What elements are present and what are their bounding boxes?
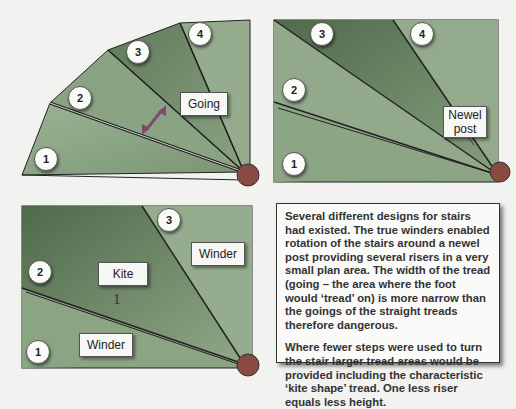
step-number-1: 1 (282, 152, 306, 176)
step-number-1: 1 (34, 147, 58, 171)
step-number-2: 2 (68, 86, 92, 110)
step-number-3: 3 (126, 40, 150, 64)
step-number-3: 3 (157, 208, 181, 232)
step-number-1: 1 (26, 340, 50, 364)
fan-winders-diagram: 1 2 3 4 Going (0, 0, 260, 190)
step-number-4: 4 (188, 22, 212, 46)
description-paragraph-1: Several different designs for stairs had… (285, 210, 491, 332)
newel-label-line1: Newel (448, 108, 481, 122)
kite-label: Kite (98, 262, 148, 286)
step-number-2: 2 (282, 78, 306, 102)
marker-one: 1 (113, 291, 121, 308)
step-number-4: 4 (410, 22, 434, 46)
newel-post-icon (237, 164, 259, 186)
step-number-2: 2 (28, 260, 52, 284)
step-number-3: 3 (310, 22, 334, 46)
kite-winders-diagram: 1 2 3 Kite Winder Winder 1 (0, 190, 260, 381)
description-paragraph-2: Where fewer steps were used to turn the … (285, 341, 491, 409)
description-box: Several different designs for stairs had… (276, 203, 500, 363)
newel-post-icon (237, 354, 259, 376)
winder-label-upper: Winder (191, 242, 245, 266)
newel-label-line2: post (454, 122, 477, 136)
newel-post-label: Newel post (443, 106, 487, 138)
rectangular-winders-diagram: 1 2 3 4 Newel post (260, 0, 516, 190)
newel-post-icon (490, 162, 510, 182)
going-label: Going (180, 92, 228, 116)
winder-label-lower: Winder (79, 333, 133, 357)
